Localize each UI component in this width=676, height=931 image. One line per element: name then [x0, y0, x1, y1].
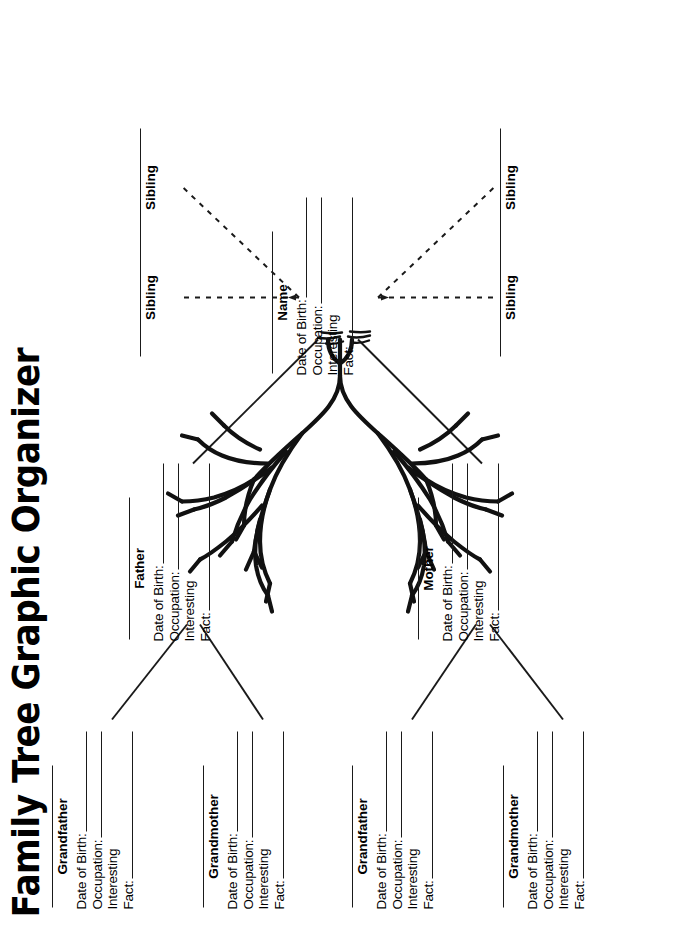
field-blank-fact[interactable] [132, 731, 133, 878]
field-interesting-fact[interactable]: Interesting Fact: [105, 731, 136, 909]
field-date-of-birth[interactable]: Date of Birth: [440, 463, 456, 641]
field-blank-occupation[interactable] [321, 197, 322, 303]
role-label: Father [132, 497, 147, 639]
field-blank-date-of-birth[interactable] [237, 731, 238, 831]
field-blank-fact[interactable] [209, 463, 210, 610]
field-label-fact: Fact: [341, 346, 357, 375]
field-label-interesting: Interesting [182, 463, 198, 641]
field-blank-occupation[interactable] [401, 731, 402, 837]
field-label-fact: Fact: [572, 880, 588, 909]
arrowhead-sibling-down [381, 294, 389, 300]
field-date-of-birth[interactable]: Date of Birth: [294, 197, 310, 375]
field-label-fact: Fact: [272, 880, 288, 909]
role-label: Grandmother [206, 765, 221, 907]
field-blank-fact[interactable] [432, 731, 433, 878]
person-card-maternal-grandfather[interactable]: Grandfather Date of Birth: Occupation: I… [352, 731, 436, 909]
sibling-slot-1[interactable]: Sibling [140, 238, 158, 356]
field-blank-date-of-birth[interactable] [452, 463, 453, 563]
field-label-occupation: Occupation: [241, 839, 257, 909]
field-label-interesting: Interesting [325, 197, 341, 375]
person-card-father[interactable]: Father Date of Birth: Occupation: Intere… [129, 463, 213, 641]
field-date-of-birth[interactable]: Date of Birth: [225, 731, 241, 909]
field-blank-date-of-birth[interactable] [163, 463, 164, 563]
field-blank-fact[interactable] [283, 731, 284, 878]
field-occupation[interactable]: Occupation: [90, 731, 106, 909]
field-label-date-of-birth: Date of Birth: [294, 299, 310, 375]
field-interesting-fact[interactable]: Interesting Fact: [256, 731, 287, 909]
sibling-blank-line[interactable] [500, 238, 501, 356]
name-blank-line[interactable] [129, 497, 130, 639]
person-card-maternal-grandmother[interactable]: Grandmother Date of Birth: Occupation: I… [503, 731, 587, 909]
field-blank-fact[interactable] [583, 731, 584, 878]
field-date-of-birth[interactable]: Date of Birth: [151, 463, 167, 641]
field-interesting-fact[interactable]: Interesting Fact: [405, 731, 436, 909]
field-label-interesting: Interesting [105, 731, 121, 909]
person-card-self[interactable]: Name Date of Birth: Occupation: Interest… [272, 197, 356, 375]
role-label: Grandfather [55, 765, 70, 907]
field-label-fact: Fact: [421, 880, 437, 909]
field-label-date-of-birth: Date of Birth: [225, 833, 241, 909]
field-label-interesting: Interesting [405, 731, 421, 909]
field-interesting-fact[interactable]: Interesting Fact: [556, 731, 587, 909]
name-blank-line[interactable] [272, 231, 273, 373]
sibling-slot-4[interactable]: Sibling [500, 128, 518, 246]
role-label: Grandmother [506, 765, 521, 907]
field-blank-fact[interactable] [352, 197, 353, 344]
connector-self-sibling-4 [378, 187, 494, 297]
field-blank-occupation[interactable] [101, 731, 102, 837]
field-blank-date-of-birth[interactable] [86, 731, 87, 831]
field-label-date-of-birth: Date of Birth: [374, 833, 390, 909]
field-blank-occupation[interactable] [467, 463, 468, 569]
sibling-blank-line[interactable] [140, 128, 141, 246]
field-label-occupation: Occupation: [310, 305, 326, 375]
field-label-interesting: Interesting [256, 731, 272, 909]
person-card-paternal-grandmother[interactable]: Grandmother Date of Birth: Occupation: I… [203, 731, 287, 909]
field-occupation[interactable]: Occupation: [167, 463, 183, 641]
field-label-date-of-birth: Date of Birth: [151, 565, 167, 641]
field-interesting-fact[interactable]: Interesting Fact: [325, 197, 356, 375]
role-label: Mother [421, 497, 436, 639]
field-label-fact: Fact: [198, 612, 214, 641]
field-blank-occupation[interactable] [178, 463, 179, 569]
field-label-fact: Fact: [121, 880, 137, 909]
field-label-occupation: Occupation: [167, 571, 183, 641]
page-title: Family Tree Graphic Organizer [4, 347, 48, 917]
worksheet-sheet: Family Tree Graphic Organizer [0, 0, 676, 931]
field-occupation[interactable]: Occupation: [241, 731, 257, 909]
name-blank-line[interactable] [418, 497, 419, 639]
field-occupation[interactable]: Occupation: [541, 731, 557, 909]
field-blank-occupation[interactable] [252, 731, 253, 837]
name-blank-line[interactable] [352, 765, 353, 907]
field-occupation[interactable]: Occupation: [456, 463, 472, 641]
worksheet-page: Family Tree Graphic Organizer [0, 0, 676, 931]
role-label: Grandfather [355, 765, 370, 907]
field-blank-date-of-birth[interactable] [386, 731, 387, 831]
sibling-label: Sibling [503, 128, 518, 246]
field-interesting-fact[interactable]: Interesting Fact: [471, 463, 502, 641]
sibling-label: Sibling [143, 238, 158, 356]
field-blank-occupation[interactable] [552, 731, 553, 837]
sibling-blank-line[interactable] [500, 128, 501, 246]
name-blank-line[interactable] [52, 765, 53, 907]
person-card-mother[interactable]: Mother Date of Birth: Occupation: Intere… [418, 463, 502, 641]
field-date-of-birth[interactable]: Date of Birth: [74, 731, 90, 909]
name-blank-line[interactable] [203, 765, 204, 907]
field-blank-date-of-birth[interactable] [306, 197, 307, 297]
field-occupation[interactable]: Occupation: [310, 197, 326, 375]
field-date-of-birth[interactable]: Date of Birth: [525, 731, 541, 909]
field-blank-fact[interactable] [498, 463, 499, 610]
sibling-blank-line[interactable] [140, 238, 141, 356]
field-label-date-of-birth: Date of Birth: [440, 565, 456, 641]
field-occupation[interactable]: Occupation: [390, 731, 406, 909]
sibling-slot-3[interactable]: Sibling [500, 238, 518, 356]
role-label: Name [275, 231, 290, 373]
name-blank-line[interactable] [503, 765, 504, 907]
field-label-occupation: Occupation: [390, 839, 406, 909]
field-interesting-fact[interactable]: Interesting Fact: [182, 463, 213, 641]
field-blank-date-of-birth[interactable] [537, 731, 538, 831]
field-date-of-birth[interactable]: Date of Birth: [374, 731, 390, 909]
person-card-paternal-grandfather[interactable]: Grandfather Date of Birth: Occupation: I… [52, 731, 136, 909]
sibling-slot-2[interactable]: Sibling [140, 128, 158, 246]
field-label-occupation: Occupation: [541, 839, 557, 909]
field-label-occupation: Occupation: [90, 839, 106, 909]
